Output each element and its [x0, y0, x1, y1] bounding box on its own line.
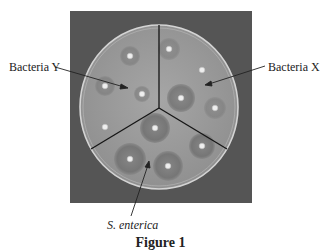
label-bacteria-y: Bacteria Y: [9, 61, 60, 73]
label-bacteria-x: Bacteria X: [268, 61, 320, 73]
figure: Bacteria Y Bacteria X S. enterica Figure…: [0, 0, 321, 251]
figure-caption: Figure 1: [0, 236, 321, 250]
petri-dish-photo: [0, 0, 321, 251]
label-s-enterica: S. enterica: [107, 219, 158, 231]
